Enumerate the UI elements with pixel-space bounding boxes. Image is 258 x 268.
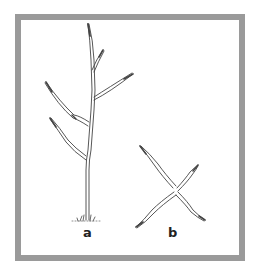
botanical-drawing bbox=[0, 0, 258, 268]
plant-b bbox=[136, 146, 205, 228]
panel-label-b: b bbox=[168, 226, 177, 239]
plant-a bbox=[45, 24, 133, 221]
panel-label-a: a bbox=[83, 226, 92, 239]
